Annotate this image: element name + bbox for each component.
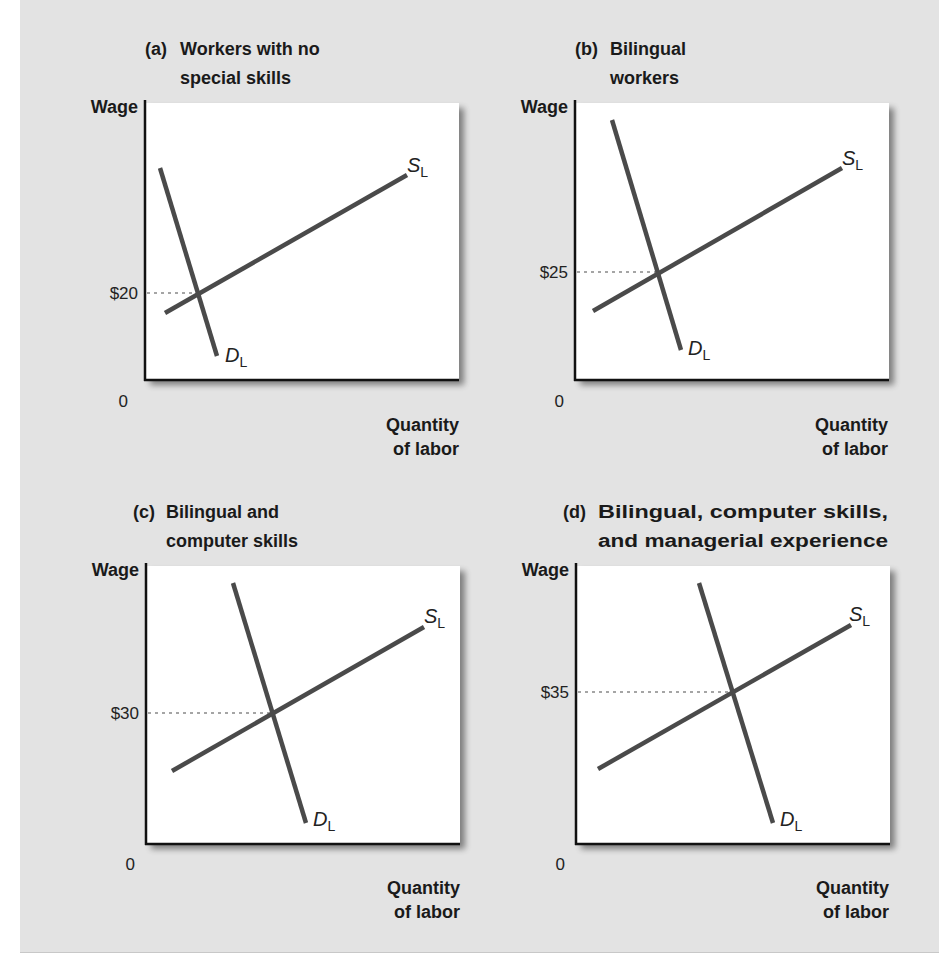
panel-a-plot-area bbox=[145, 103, 459, 380]
panel-c-x-axis-label-line1: Quantity bbox=[387, 878, 460, 898]
panel-a-title-line1: Workers with no bbox=[180, 39, 320, 59]
panel-a-title-line2: special skills bbox=[180, 68, 291, 88]
panel-d-title-line2: and managerial experience bbox=[598, 531, 888, 551]
panel-a-y-axis-label: Wage bbox=[91, 97, 138, 117]
panel-d-wage-tick: $35 bbox=[541, 683, 569, 702]
panel-d-title-line1: Bilingual, computer skills, bbox=[598, 502, 888, 522]
panel-b: (b) Bilingual workers Wage $25 0 DL SL Q… bbox=[521, 39, 889, 459]
panel-b-y-axis-label: Wage bbox=[521, 97, 568, 117]
panel-d: (d) Bilingual, computer skills, and mana… bbox=[522, 502, 890, 922]
panel-b-wage-tick: $25 bbox=[540, 263, 568, 282]
panel-c: (c) Bilingual and computer skills Wage $… bbox=[92, 502, 460, 922]
panel-a-letter: (a) bbox=[145, 39, 167, 59]
panel-d-origin: 0 bbox=[556, 855, 565, 874]
labor-market-charts: (a) Workers with no special skills Wage … bbox=[0, 0, 939, 963]
panel-c-y-axis-label: Wage bbox=[92, 560, 139, 580]
panel-a-x-axis-label-line1: Quantity bbox=[386, 415, 459, 435]
panel-c-x-axis-label-line2: of labor bbox=[394, 902, 460, 922]
panel-d-x-axis-label-line2: of labor bbox=[823, 902, 889, 922]
panel-b-origin: 0 bbox=[555, 392, 564, 411]
panel-a-wage-tick: $20 bbox=[110, 284, 138, 303]
panel-b-title-line1: Bilingual bbox=[610, 39, 686, 59]
panel-c-title-line1: Bilingual and bbox=[166, 502, 279, 522]
panel-b-x-axis-label-line1: Quantity bbox=[815, 415, 888, 435]
panel-a: (a) Workers with no special skills Wage … bbox=[91, 39, 459, 459]
panel-c-title-line2: computer skills bbox=[166, 531, 298, 551]
panel-d-x-axis-label-line1: Quantity bbox=[816, 878, 889, 898]
panel-a-x-axis-label-line2: of labor bbox=[393, 439, 459, 459]
panel-b-plot-area bbox=[575, 103, 889, 380]
panel-b-letter: (b) bbox=[575, 39, 598, 59]
panel-d-plot-area bbox=[576, 566, 890, 844]
panel-d-y-axis-label: Wage bbox=[522, 560, 569, 580]
panel-a-origin: 0 bbox=[119, 392, 128, 411]
panel-b-title-line2: workers bbox=[609, 68, 679, 88]
panel-d-letter: (d) bbox=[563, 502, 586, 522]
panel-c-letter: (c) bbox=[133, 502, 155, 522]
panel-c-origin: 0 bbox=[126, 855, 135, 874]
panel-c-wage-tick: $30 bbox=[111, 704, 139, 723]
panel-c-plot-area bbox=[146, 566, 460, 844]
panel-b-x-axis-label-line2: of labor bbox=[822, 439, 888, 459]
